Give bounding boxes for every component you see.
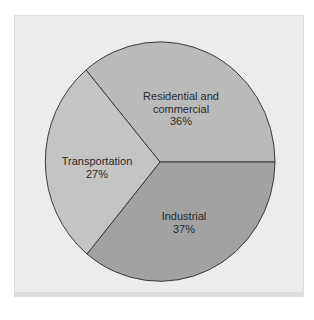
label-industrial: Industrial 37%: [162, 210, 207, 235]
label-transportation-value: 27%: [62, 168, 133, 181]
label-transportation-name: Transportation: [62, 155, 133, 168]
label-industrial-value: 37%: [162, 223, 207, 236]
label-residential-line1: Residential and: [143, 90, 219, 103]
label-industrial-name: Industrial: [162, 210, 207, 223]
pie-chart: [0, 0, 314, 320]
label-residential-commercial: Residential and commercial 36%: [143, 90, 219, 128]
label-transportation: Transportation 27%: [62, 155, 133, 180]
label-residential-value: 36%: [143, 115, 219, 128]
label-residential-line2: commercial: [143, 103, 219, 116]
